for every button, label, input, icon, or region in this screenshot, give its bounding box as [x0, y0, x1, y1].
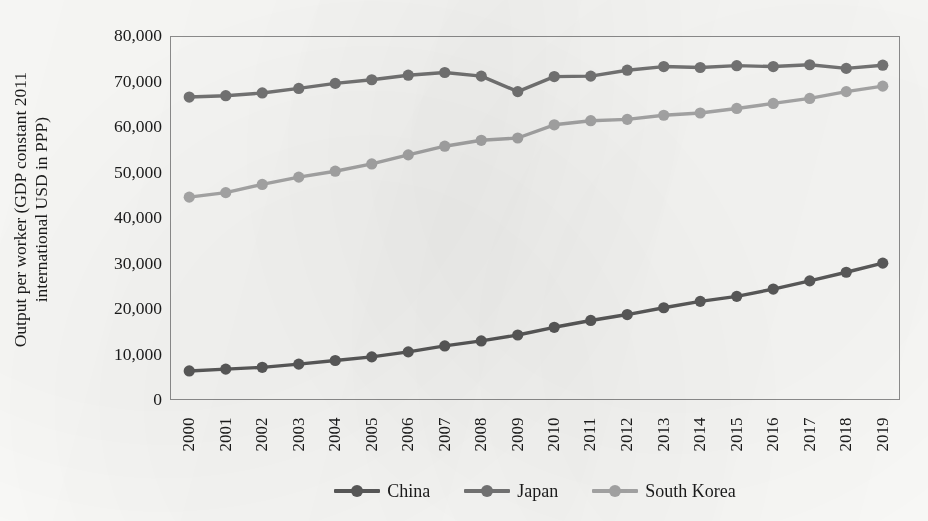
data-point-marker [366, 158, 377, 169]
y-axis-tick-label: 40,000 [82, 209, 162, 227]
data-point-marker [549, 119, 560, 130]
data-point-marker [804, 93, 815, 104]
y-axis-title-line-1: Output per worker (GDP constant 2011 [10, 72, 31, 347]
series-line [189, 65, 883, 97]
x-axis-tick-label: 2007 [433, 400, 455, 472]
legend-item-south-korea[interactable]: South Korea [592, 482, 735, 500]
x-axis-tick-label: 2009 [506, 400, 528, 472]
legend-item-japan[interactable]: Japan [464, 482, 558, 500]
data-point-marker [293, 359, 304, 370]
legend-label: China [387, 482, 430, 500]
data-point-marker [731, 291, 742, 302]
x-axis-tick-label: 2017 [798, 400, 820, 472]
data-point-marker [512, 86, 523, 97]
data-point-marker [439, 141, 450, 152]
data-point-marker [622, 309, 633, 320]
legend-label: Japan [517, 482, 558, 500]
data-point-marker [403, 70, 414, 81]
x-axis-tick-label: 2015 [725, 400, 747, 472]
x-axis-tick-label: 2004 [323, 400, 345, 472]
x-axis-tick-label: 2001 [214, 400, 236, 472]
x-axis-tick-label: 2002 [250, 400, 272, 472]
data-point-marker [366, 74, 377, 85]
data-point-marker [768, 283, 779, 294]
data-point-marker [877, 60, 888, 71]
legend-marker-icon [334, 484, 380, 498]
data-point-marker [877, 81, 888, 92]
data-point-marker [695, 107, 706, 118]
x-axis-tick-label: 2010 [542, 400, 564, 472]
x-axis-tick-labels: 2000200120022003200420052006200720082009… [170, 400, 900, 475]
y-axis-tick-label: 70,000 [82, 73, 162, 91]
data-point-marker [585, 71, 596, 82]
series-line [189, 263, 883, 371]
x-axis-tick-label: 2016 [761, 400, 783, 472]
plot-area [170, 36, 900, 400]
data-point-marker [184, 192, 195, 203]
x-axis-tick-label: 2019 [871, 400, 893, 472]
series-japan [184, 59, 889, 103]
data-point-marker [220, 364, 231, 375]
data-point-marker [695, 296, 706, 307]
data-point-marker [403, 346, 414, 357]
data-point-marker [768, 61, 779, 72]
data-point-marker [658, 110, 669, 121]
data-point-marker [476, 335, 487, 346]
data-point-marker [184, 365, 195, 376]
data-point-marker [184, 91, 195, 102]
y-axis-tick-label: 50,000 [82, 164, 162, 182]
data-point-marker [220, 187, 231, 198]
data-point-marker [804, 275, 815, 286]
y-axis-title: Output per worker (GDP constant 2011 int… [0, 0, 62, 420]
data-point-marker [476, 135, 487, 146]
x-axis-tick-label: 2011 [579, 400, 601, 472]
x-axis-tick-label: 2014 [688, 400, 710, 472]
data-point-marker [877, 258, 888, 269]
x-axis-tick-label: 2000 [177, 400, 199, 472]
x-axis-tick-label: 2005 [360, 400, 382, 472]
data-point-marker [658, 302, 669, 313]
data-point-marker [293, 172, 304, 183]
data-point-marker [549, 71, 560, 82]
data-point-marker [512, 329, 523, 340]
data-point-marker [366, 351, 377, 362]
x-axis-tick-label: 2012 [615, 400, 637, 472]
data-point-marker [293, 83, 304, 94]
legend-marker-icon [592, 484, 638, 498]
data-point-marker [257, 179, 268, 190]
data-point-marker [695, 62, 706, 73]
y-axis-tick-label: 20,000 [82, 300, 162, 318]
data-point-marker [330, 78, 341, 89]
y-axis-title-line-2: international USD in PPP) [31, 72, 52, 347]
data-point-marker [841, 86, 852, 97]
x-axis-tick-label: 2018 [834, 400, 856, 472]
data-point-marker [439, 67, 450, 78]
data-point-marker [403, 149, 414, 160]
data-point-marker [257, 87, 268, 98]
data-point-marker [731, 60, 742, 71]
x-axis-tick-label: 2013 [652, 400, 674, 472]
legend-item-china[interactable]: China [334, 482, 430, 500]
legend-marker-icon [464, 484, 510, 498]
data-point-marker [658, 61, 669, 72]
data-point-marker [585, 115, 596, 126]
chart-legend: ChinaJapanSouth Korea [170, 474, 900, 508]
data-point-marker [841, 267, 852, 278]
y-axis-tick-labels: 80,00070,00060,00050,00040,00030,00020,0… [78, 0, 162, 521]
x-axis-tick-label: 2006 [396, 400, 418, 472]
data-point-marker [585, 315, 596, 326]
y-axis-tick-label: 80,000 [82, 27, 162, 45]
data-point-marker [841, 63, 852, 74]
data-point-marker [622, 65, 633, 76]
line-chart-figure: Output per worker (GDP constant 2011 int… [0, 0, 928, 521]
y-axis-tick-label: 60,000 [82, 118, 162, 136]
plot-svg [171, 37, 901, 401]
data-point-marker [549, 322, 560, 333]
data-point-marker [804, 59, 815, 70]
data-point-marker [220, 90, 231, 101]
data-point-marker [512, 132, 523, 143]
data-point-marker [768, 98, 779, 109]
y-axis-tick-label: 0 [82, 391, 162, 409]
series-china [184, 258, 889, 377]
x-axis-tick-label: 2008 [469, 400, 491, 472]
